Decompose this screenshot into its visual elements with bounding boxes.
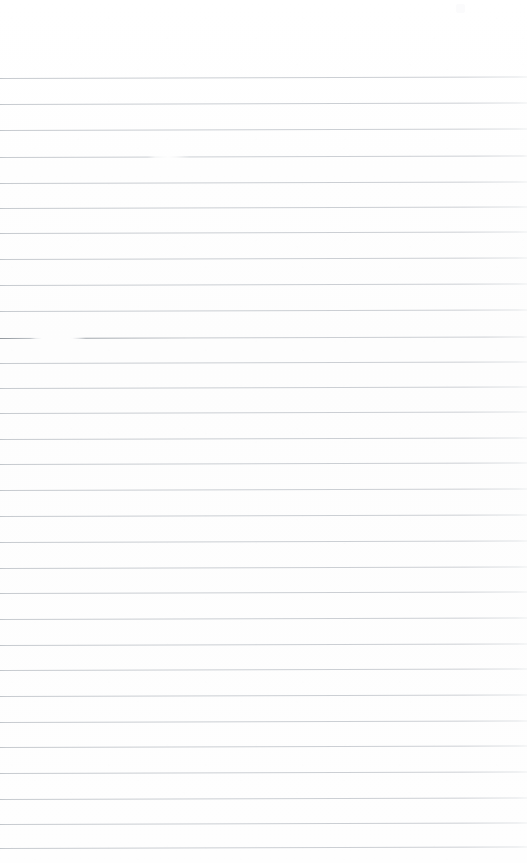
scanner-speck-artifact [456,4,465,13]
rule-line [0,207,527,209]
rule-line [0,310,527,312]
rule-line [0,644,527,646]
rule-line [0,182,527,184]
rule-line [0,412,527,414]
rule-line [0,463,527,465]
rule-line [0,284,527,286]
rule-line [0,592,527,594]
rule-line [0,337,527,339]
rule-line [0,823,527,825]
rule-line [0,515,527,517]
rule-line [0,232,527,234]
rule-line [0,129,527,131]
rule-line [0,618,527,620]
rule-line [0,721,527,723]
rule-line [0,362,527,364]
rule-line [0,847,527,849]
rule-line [0,567,527,569]
rule-line [0,156,527,158]
rule-line [0,77,527,79]
rule-line [0,438,527,440]
rule-line [0,103,527,105]
rule-line [0,772,527,774]
rule-line [0,489,527,491]
rule-line [0,669,527,671]
rule-line [0,258,527,260]
rule-line [0,387,527,389]
rule-line [0,746,527,748]
scanned-page [0,0,527,863]
rule-line [0,695,527,697]
rule-line [0,541,527,543]
rule-line [0,798,527,800]
